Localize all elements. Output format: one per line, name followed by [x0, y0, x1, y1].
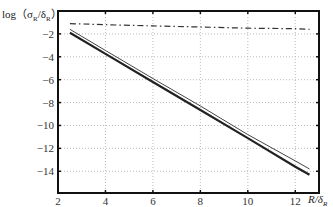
x-tick-labels: 24681012	[55, 195, 301, 207]
x-tick-label: 12	[290, 195, 301, 207]
y-tick-label: −2	[42, 28, 54, 40]
x-tick-label: 4	[103, 195, 109, 207]
y-tick-label: −12	[37, 142, 54, 154]
y-tick-label: −6	[42, 74, 54, 86]
x-tick-label: 6	[150, 195, 156, 207]
x-tick-label: 8	[198, 195, 204, 207]
x-tick-label: 10	[242, 195, 254, 207]
y-tick-label: −8	[42, 97, 54, 109]
y-axis-label: log（σR/δR）	[2, 8, 62, 23]
y-tick-label: −10	[37, 119, 55, 131]
line-chart: 24681012 −2−4−6−8−10−12−14 log（σR/δR） R/…	[0, 0, 333, 207]
y-tick-label: −14	[37, 165, 55, 177]
x-tick-label: 2	[55, 195, 61, 207]
series-solid-thin	[70, 29, 310, 169]
y-tick-labels: −2−4−6−8−10−12−14	[37, 28, 55, 177]
x-axis-label: R/δR	[307, 193, 328, 207]
series-solid-thick	[70, 33, 310, 175]
y-tick-label: −4	[42, 51, 54, 63]
